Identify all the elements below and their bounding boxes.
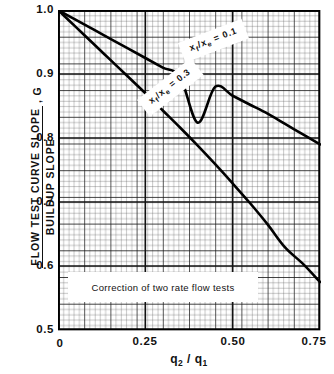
x-axis-label-q2-main: q [170,352,178,366]
x-axis-label-slash: / [183,352,195,366]
x-axis-label-q1-sub: 1 [203,358,208,368]
x-tick-label: 0.25 [133,336,158,348]
x-axis-label: q2 / q1 [170,352,208,368]
chart-figure: FLOW TEST CURVE SLOPE BUILDUP SLOPE , G … [0,0,334,374]
chart-caption: Correction of two rate flow tests [68,272,258,302]
curve-label-0.1-value: = 0.1 [209,25,238,44]
x-tick-label: 0.50 [221,336,246,348]
x-tick-label: 0.75 [302,336,327,348]
x-tick-label: 0 [57,338,64,350]
